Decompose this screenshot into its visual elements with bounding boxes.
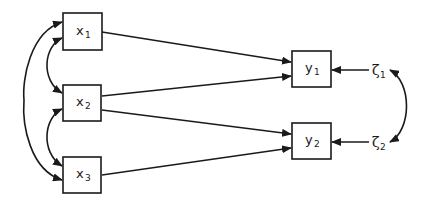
node-y1: y 1 (292, 51, 331, 87)
covariance-zeta1-zeta2 (390, 70, 407, 142)
node-y1-subscript: 1 (314, 67, 320, 77)
path-diagram: x 1 x 2 x 3 y 1 y 2 ζ 1 ζ 2 (0, 0, 428, 206)
covariance-x2-x3 (47, 109, 62, 166)
node-x1-label: x (76, 23, 84, 38)
node-zeta1: ζ 1 (372, 62, 386, 80)
node-zeta1-subscript: 1 (380, 70, 386, 80)
covariance-x1-x3 (24, 22, 62, 180)
path-x1-y1 (102, 32, 291, 62)
path-x2-y1 (102, 76, 291, 96)
node-zeta1-label: ζ (372, 62, 380, 78)
path-x3-y2 (102, 148, 291, 175)
node-x2-label: x (76, 94, 84, 109)
node-x2-subscript: 2 (85, 101, 91, 111)
node-x3: x 3 (63, 157, 101, 193)
node-y2-label: y (305, 132, 313, 147)
covariance-x1-x2 (47, 38, 62, 93)
node-y1-label: y (305, 60, 313, 75)
node-x3-subscript: 3 (85, 173, 91, 183)
node-zeta2: ζ 2 (372, 134, 386, 152)
node-x1-subscript: 1 (85, 30, 91, 40)
path-x2-y2 (102, 110, 291, 134)
node-y2-subscript: 2 (314, 139, 320, 149)
node-x1: x 1 (63, 13, 102, 50)
node-zeta2-label: ζ (372, 134, 380, 150)
node-y2: y 2 (292, 123, 331, 159)
node-x3-label: x (76, 166, 84, 181)
node-zeta2-subscript: 2 (380, 142, 386, 152)
node-x2: x 2 (63, 85, 101, 121)
